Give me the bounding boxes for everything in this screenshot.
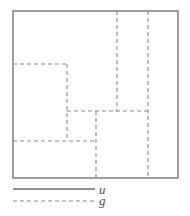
legend-label-g: g [99,194,106,207]
diagram-canvas [0,0,190,216]
domain-boundary [13,11,178,178]
figure-container: u g [0,0,190,216]
dashed-interface-group [13,11,148,178]
legend-swatch-group [13,189,95,201]
